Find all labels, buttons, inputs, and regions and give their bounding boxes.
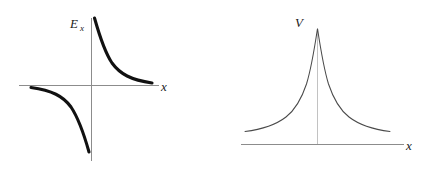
chart-electric-potential: V x xyxy=(213,0,426,170)
chart-electric-field: E x x xyxy=(0,0,213,170)
x-axis-label-field: x xyxy=(160,79,167,94)
y-axis-label-potential: V xyxy=(295,15,305,30)
curve-field-negative-branch xyxy=(31,88,89,153)
curve-field-positive-branch xyxy=(95,18,153,83)
x-axis-label-potential: x xyxy=(405,138,412,153)
figure-root: E x x V x xyxy=(0,0,426,170)
y-axis-label-field-subscript: x xyxy=(79,23,84,33)
y-axis-label-field: E xyxy=(69,16,78,31)
